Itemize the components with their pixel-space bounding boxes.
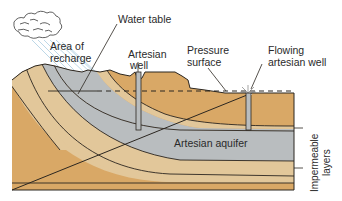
- label-pressure-surface-2: surface: [187, 56, 222, 68]
- label-impermeable-1: Impermeable: [309, 133, 320, 192]
- artesian-well: [136, 72, 141, 130]
- label-flowing-well-1: Flowing: [268, 44, 304, 56]
- label-impermeable-2: layers: [321, 149, 332, 176]
- label-artesian-aquifer: Artesian aquifer: [174, 137, 248, 149]
- cloud-icon: [14, 11, 62, 38]
- label-pressure-surface-1: Pressure: [187, 44, 229, 56]
- label-area-of-recharge-2: recharge: [50, 52, 92, 64]
- label-flowing-well-2: artesian well: [268, 56, 326, 68]
- water-spray-icon: [240, 85, 256, 93]
- geologic-layers: [0, 55, 342, 201]
- label-area-of-recharge-1: Area of: [50, 40, 84, 52]
- label-artesian-well-2: well: [129, 59, 148, 71]
- artesian-aquifer-diagram: Water table Area of recharge Artesian we…: [0, 0, 342, 201]
- label-water-table: Water table: [118, 13, 171, 25]
- flowing-artesian-well: [246, 93, 251, 130]
